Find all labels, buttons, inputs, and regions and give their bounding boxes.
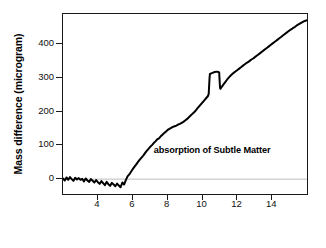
x-tick-label: 4 — [82, 199, 112, 209]
x-tick-label: 10 — [187, 199, 217, 209]
data-plot-svg — [63, 14, 308, 195]
x-tick-label: 12 — [221, 199, 251, 209]
y-tick-mark — [56, 178, 62, 179]
y-tick-label: 200 — [14, 106, 54, 116]
chart-figure: Mass difference (microgram) absorption o… — [0, 0, 326, 248]
y-tick-mark — [56, 43, 62, 44]
x-tick-label: 8 — [152, 199, 182, 209]
x-tick-label: 14 — [256, 199, 286, 209]
x-tick-mark — [167, 195, 168, 200]
y-tick-label: 100 — [14, 139, 54, 149]
y-tick-mark — [56, 144, 62, 145]
plot-area — [62, 13, 308, 195]
x-tick-mark — [236, 195, 237, 200]
mass-difference-line — [63, 19, 308, 187]
absorption-annotation: absorption of Subtle Matter — [154, 145, 271, 155]
y-tick-label: 0 — [14, 173, 54, 183]
x-tick-label: 6 — [117, 199, 147, 209]
x-tick-mark — [132, 195, 133, 200]
y-tick-label: 400 — [14, 38, 54, 48]
x-tick-mark — [202, 195, 203, 200]
y-tick-label: 300 — [14, 72, 54, 82]
y-tick-mark — [56, 111, 62, 112]
x-tick-mark — [97, 195, 98, 200]
y-tick-mark — [56, 77, 62, 78]
x-tick-mark — [271, 195, 272, 200]
